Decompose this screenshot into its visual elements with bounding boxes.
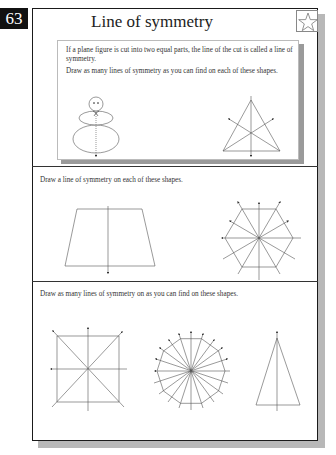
square-shape [51, 328, 127, 411]
equilateral-triangle-shape [223, 96, 280, 156]
decagon-shape [154, 332, 230, 410]
shapes-canvas [0, 0, 336, 455]
hexagon-shape [222, 202, 301, 280]
trapezoid-shape [65, 206, 155, 273]
isosceles-triangle-shape [256, 332, 300, 411]
snowman-shape [73, 97, 119, 156]
